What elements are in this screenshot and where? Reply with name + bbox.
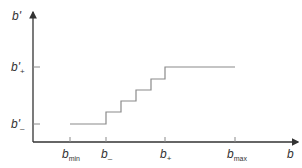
step-curve	[70, 67, 235, 124]
x-tick-label-b-max: bmax	[227, 147, 247, 162]
x-tick-label-b-plus: b+	[160, 147, 172, 163]
y-axis-label: b'	[12, 9, 22, 23]
y-tick-label-b-prime-minus: b'–	[11, 117, 25, 133]
step-function-diagram: b' b'+ b'– bmin b– b+ bmax b	[0, 0, 302, 168]
x-tick-label-b-minus: b–	[101, 147, 113, 163]
x-tick-label-b-min: bmin	[62, 147, 80, 162]
y-tick-label-b-prime-plus: b'+	[11, 60, 25, 76]
x-axis-label: b	[287, 147, 294, 161]
